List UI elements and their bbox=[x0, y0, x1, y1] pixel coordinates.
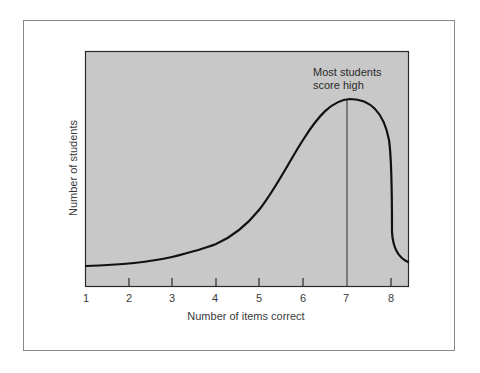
y-axis-title: Number of students bbox=[67, 120, 79, 216]
tick-label-3: 3 bbox=[169, 292, 175, 304]
annotation-line-2: score high bbox=[313, 79, 364, 91]
tick-label-5: 5 bbox=[256, 292, 262, 304]
chart: Most students score high 1 2 3 4 5 6 7 8… bbox=[0, 0, 480, 373]
tick-label-6: 6 bbox=[300, 292, 306, 304]
tick-label-8: 8 bbox=[388, 292, 394, 304]
tick-label-2: 2 bbox=[126, 292, 132, 304]
tick-label-7: 7 bbox=[343, 292, 349, 304]
x-axis-title: Number of items correct bbox=[187, 310, 304, 322]
x-tick-labels: 1 2 3 4 5 6 7 8 bbox=[83, 292, 394, 304]
tick-label-4: 4 bbox=[212, 292, 218, 304]
tick-label-1: 1 bbox=[83, 292, 89, 304]
annotation-line-1: Most students bbox=[313, 66, 382, 78]
